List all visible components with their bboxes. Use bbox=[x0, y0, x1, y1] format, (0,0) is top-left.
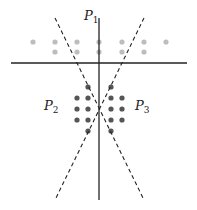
light-dot bbox=[74, 49, 79, 54]
dark-dot bbox=[74, 106, 79, 111]
dark-dot bbox=[85, 117, 90, 122]
dark-dot bbox=[85, 95, 90, 100]
dark-dot bbox=[74, 95, 79, 100]
dark-dot bbox=[119, 106, 124, 111]
dark-dot bbox=[119, 95, 124, 100]
light-dot bbox=[141, 49, 146, 54]
dark-dot bbox=[85, 106, 90, 111]
dark-dot bbox=[108, 95, 113, 100]
light-dot bbox=[119, 49, 124, 54]
light-dot bbox=[52, 39, 57, 44]
light-dot bbox=[74, 39, 79, 44]
label-p2: P2 bbox=[43, 98, 58, 115]
dark-dot bbox=[108, 117, 113, 122]
light-dot bbox=[119, 39, 124, 44]
light-dot bbox=[141, 39, 146, 44]
diagram-canvas: P1 P2 P3 bbox=[0, 0, 197, 210]
light-dot bbox=[163, 39, 168, 44]
label-p1: P1 bbox=[83, 8, 98, 25]
dark-dot bbox=[119, 117, 124, 122]
dark-dot bbox=[74, 117, 79, 122]
light-dot bbox=[52, 49, 57, 54]
dark-dot bbox=[108, 106, 113, 111]
label-p3: P3 bbox=[134, 98, 150, 115]
light-dot bbox=[30, 39, 35, 44]
